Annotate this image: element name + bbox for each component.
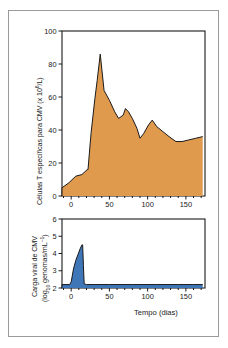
bottom-panel-y-axis-label-line2: (log10 genomas/mL−1) [39,234,51,302]
x-tick-label-bottom-3: 150 [180,292,192,301]
panel-bottom: 23456050100150 [52,215,205,301]
bottom-y-label-log-sub: 10 [45,285,51,291]
top-y-label-main: Células T específicas para CMV (x 10 [35,88,44,205]
y-tick-label-top-5: 100 [44,27,56,36]
y-tick-label-bottom-2: 4 [52,249,56,258]
bottom-panel-y-axis-label-line1: Carga viral de CMV [30,236,39,297]
x-tick-label-bottom-2: 100 [141,292,153,301]
figure-container: 02040608010005010015023456050100150 Célu… [0,0,228,348]
x-axis-label: Tempo (dias) [134,308,178,317]
y-tick-label-bottom-0: 2 [52,284,56,293]
x-tick-label-top-3: 150 [180,200,192,209]
bottom-y-label-units: genomas/mL [40,242,49,284]
top-panel-y-axis-label: Células T específicas para CMV (x 106/L) [34,77,44,205]
y-tick-label-top-1: 20 [48,159,56,168]
y-tick-label-bottom-3: 5 [52,232,56,241]
x-tick-label-bottom-0: 0 [69,292,73,301]
bottom-y-label-line1: Carga viral de CMV [30,236,39,297]
bottom-y-label-close: ) [40,234,49,236]
y-tick-label-bottom-4: 6 [52,215,56,224]
x-tick-label-bottom-1: 50 [105,292,113,301]
bottom-y-label-exponent: −1 [39,237,45,243]
y-tick-label-top-0: 0 [52,192,56,201]
top-y-label-tail: /L) [35,77,44,85]
y-tick-label-bottom-1: 3 [52,266,56,275]
x-tick-label-top-0: 0 [69,200,73,209]
panel-top: 020406080100050100150 [44,27,205,209]
top-y-label-exponent: 6 [34,85,40,88]
x-tick-label-top-2: 100 [141,200,153,209]
bottom-y-label-log: (log [40,290,49,302]
x-tick-label-top-1: 50 [105,200,113,209]
x-axis-label-text: Tempo (dias) [134,308,178,317]
area-fill-top [62,54,203,196]
y-tick-label-top-3: 60 [48,93,56,102]
y-tick-label-top-4: 80 [48,60,56,69]
y-tick-label-top-2: 40 [48,126,56,135]
